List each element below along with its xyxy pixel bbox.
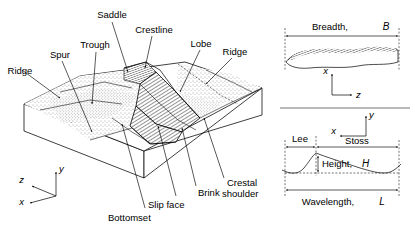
label-brink: Brink: [198, 187, 220, 198]
profile-height-symbol: H: [362, 158, 370, 169]
profile-wavelength-symbol: L: [379, 196, 385, 207]
label-trough: Trough: [80, 39, 110, 50]
block-axes: y z x: [18, 163, 65, 207]
plan-view-panel: Breadth, B x z: [285, 21, 399, 100]
label-crestal-shoulder-line2: shoulder: [222, 188, 258, 199]
plan-crest-band: [290, 47, 396, 61]
block-axis-y-label: y: [58, 163, 65, 174]
label-lobe: Lobe: [190, 38, 211, 49]
plan-breadth-label: Breadth,: [312, 21, 348, 32]
label-slip-face: Slip face: [148, 199, 184, 210]
profile-stoss-label: Stoss: [345, 135, 369, 146]
label-crestline: Crestline: [135, 24, 173, 35]
label-spur: Spur: [50, 49, 70, 60]
label-crestal-shoulder-line1: Crestal: [227, 177, 257, 188]
label-ridge-right: Ridge: [223, 46, 248, 57]
profile-wavelength-label: Wavelength,: [302, 196, 354, 207]
bedform-diagram: y z x Ridge Spur Trough Saddle Crestline…: [0, 0, 415, 226]
profile-axis-y-label: y: [368, 109, 375, 120]
plan-breadth-symbol: B: [383, 21, 390, 32]
plan-axes: x z: [322, 65, 361, 100]
block-axis-x-line: [30, 196, 56, 203]
profile-axes: y x: [330, 109, 375, 136]
label-saddle: Saddle: [97, 9, 127, 20]
block-axis-x-label: x: [18, 196, 25, 207]
block-axis-z-line: [32, 186, 56, 196]
label-ridge-left: Ridge: [8, 65, 33, 76]
block-axis-z-label: z: [18, 174, 24, 185]
profile-view-panel: y x Lee Stoss Height, H Waveleng: [282, 109, 401, 207]
figure-root: y z x Ridge Spur Trough Saddle Crestline…: [0, 0, 415, 226]
block-diagram-panel: y z x Ridge Spur Trough Saddle Crestline…: [8, 9, 262, 223]
profile-axis-x-label: x: [330, 125, 337, 136]
plan-axis-x-label: x: [322, 65, 329, 76]
label-bottomset: Bottomset: [108, 212, 151, 223]
profile-lee-label: Lee: [292, 133, 308, 144]
plan-axis-z-label: z: [355, 89, 361, 100]
leader-saddle: [112, 22, 128, 72]
profile-height-label: Height,: [322, 158, 352, 169]
